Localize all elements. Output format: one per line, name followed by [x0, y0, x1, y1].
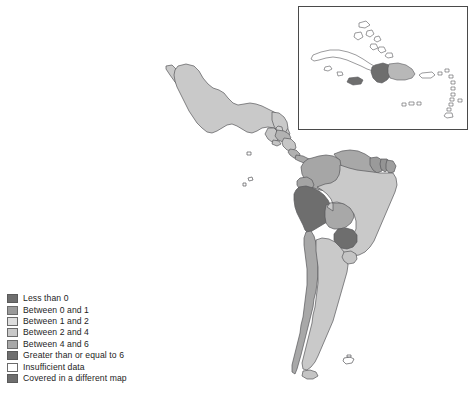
legend-label-insufficient-data: Insufficient data: [23, 363, 85, 372]
legend-item-between-2-and-4: Between 2 and 4: [7, 327, 187, 338]
inset-region-anguilla: [445, 69, 449, 72]
inset-region-turks-and-caicos: [385, 53, 393, 58]
legend-swatch-covered-in-different-map: [7, 374, 18, 383]
inset-region-bahamas-andros: [354, 32, 363, 40]
region-nicaragua: [282, 138, 296, 151]
legend-swatch-between-0-and-1: [7, 306, 18, 315]
legend-swatch-less-than-0: [7, 294, 18, 303]
region-pacific-islet: [243, 183, 246, 186]
legend-item-between-1-and-2: Between 1 and 2: [7, 316, 187, 327]
legend-label-between-4-and-6: Between 4 and 6: [23, 340, 89, 349]
region-falkland-islands: [343, 357, 354, 364]
inset-region-isla-de-la-juventud: [324, 66, 332, 71]
inset-region-bahamas-cat: [374, 36, 381, 42]
region-mexico: [174, 64, 290, 137]
region-south-atlantic-islet: [347, 355, 351, 357]
legend-label-between-0-and-1: Between 0 and 1: [23, 306, 89, 315]
legend-label-less-than-0: Less than 0: [23, 294, 69, 303]
inset-region-bahamas-long: [370, 44, 378, 50]
legend-label-between-2-and-4: Between 2 and 4: [23, 328, 89, 337]
inset-region-bahamas: [359, 21, 370, 28]
region-tierra-del-fuego: [302, 370, 318, 379]
inset-region-bahamas-eleuthera: [366, 30, 374, 37]
caribbean-inset: [298, 6, 468, 130]
map-figure: Less than 0 Between 0 and 1 Between 1 an…: [0, 0, 475, 402]
legend-item-between-4-and-6: Between 4 and 6: [7, 339, 187, 350]
legend-item-covered-in-different-map: Covered in a different map: [7, 373, 187, 384]
legend-item-greater-or-equal-6: Greater than or equal to 6: [7, 350, 187, 361]
inset-region-dominica: [451, 87, 455, 90]
inset-region-bahamas-acklins: [378, 47, 386, 53]
legend-item-between-0-and-1: Between 0 and 1: [7, 304, 187, 315]
inset-region-guadeloupe: [451, 81, 455, 84]
inset-region-saint-vincent: [449, 103, 453, 106]
inset-region-dominican-republic: [388, 63, 415, 80]
legend-swatch-between-2-and-4: [7, 328, 18, 337]
inset-region-saint-lucia: [450, 98, 454, 101]
legend-label-between-1-and-2: Between 1 and 2: [23, 317, 89, 326]
inset-region-barbados: [458, 99, 462, 102]
inset-region-antigua: [449, 75, 453, 78]
inset-region-grenada: [447, 108, 451, 111]
legend-swatch-greater-or-equal-6: [7, 351, 18, 360]
inset-region-cuba: [311, 50, 377, 71]
inset-region-curacao: [409, 102, 414, 105]
inset-region-martinique: [451, 93, 455, 96]
inset-region-aruba: [402, 103, 406, 106]
legend-swatch-insufficient-data: [7, 363, 18, 372]
inset-region-jamaica: [347, 77, 363, 85]
inset-region-bonaire: [417, 102, 421, 105]
inset-region-trinidad-and-tobago: [444, 113, 453, 118]
map-legend: Less than 0 Between 0 and 1 Between 1 an…: [7, 293, 187, 384]
legend-item-less-than-0: Less than 0: [7, 293, 187, 304]
region-caribbean-islet: [247, 152, 251, 155]
legend-item-insufficient-data: Insufficient data: [7, 361, 187, 372]
legend-label-covered-in-different-map: Covered in a different map: [23, 374, 127, 383]
inset-region-puerto-rico: [419, 72, 435, 78]
legend-label-greater-or-equal-6: Greater than or equal to 6: [23, 351, 124, 360]
inset-region-virgin-islands: [438, 72, 442, 75]
legend-swatch-between-1-and-2: [7, 317, 18, 326]
region-french-guiana: [386, 160, 396, 173]
inset-region-cayman-islands: [337, 72, 343, 76]
caribbean-inset-map: [299, 7, 467, 129]
region-galapagos-islands: [248, 177, 253, 181]
legend-swatch-between-4-and-6: [7, 340, 18, 349]
